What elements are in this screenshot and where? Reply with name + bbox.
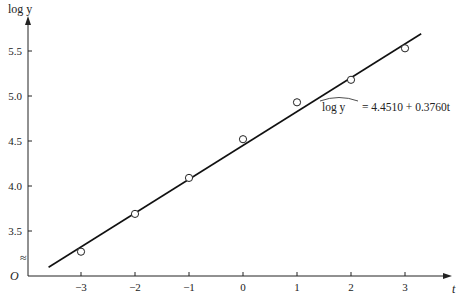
x-tick-label: −3 xyxy=(75,281,87,293)
origin-label: O xyxy=(10,269,19,283)
data-point xyxy=(347,76,354,83)
y-tick-label: 5.5 xyxy=(8,45,22,57)
fitted-line xyxy=(49,34,422,267)
data-point xyxy=(293,99,300,106)
equation-annotation: log y = 4.4510 + 0.3760t xyxy=(320,98,451,115)
x-axis-arrow-icon xyxy=(443,273,452,279)
y-tick-label: 4.0 xyxy=(8,180,22,192)
x-tick-label: −2 xyxy=(129,281,141,293)
y-tick-label: 5.0 xyxy=(8,90,22,102)
y-tick-label: 4.5 xyxy=(8,135,22,147)
data-points xyxy=(77,45,408,256)
x-tick-label: 0 xyxy=(240,281,246,293)
data-point xyxy=(131,210,138,217)
y-tick-label: 3.5 xyxy=(8,225,22,237)
data-point xyxy=(185,174,192,181)
data-point xyxy=(239,136,246,143)
x-tick-label: 1 xyxy=(294,281,300,293)
equation-rhs: = 4.4510 + 0.3760t xyxy=(362,101,451,113)
regression-chart: −3−2−10123 3.54.04.55.05.5 log y t O ≈ l… xyxy=(0,0,460,305)
equation-lhs: log y xyxy=(322,101,346,114)
x-tick-label: −1 xyxy=(183,281,195,293)
y-axis-label: log y xyxy=(8,2,32,16)
data-point xyxy=(77,248,84,255)
x-axis-label: t xyxy=(452,282,456,296)
y-axis-arrow-icon xyxy=(25,16,31,25)
axis-break-icon: ≈ xyxy=(20,251,27,265)
x-ticks: −3−2−10123 xyxy=(75,272,408,293)
x-tick-label: 2 xyxy=(348,281,354,293)
x-tick-label: 3 xyxy=(402,281,408,293)
data-point xyxy=(401,45,408,52)
